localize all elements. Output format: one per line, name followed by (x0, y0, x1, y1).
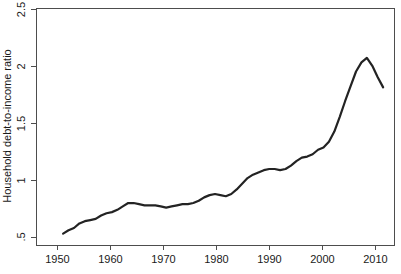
chart-container: .5 1 1.5 2 2.5 Household debt-to-income … (0, 0, 401, 274)
y-tick-label-3: 2 (15, 63, 27, 69)
y-tick-label-4: 2.5 (15, 2, 27, 17)
x-tick-label-2: 1970 (151, 253, 175, 265)
y-tick-label-1: 1 (15, 177, 27, 183)
x-tick-label-6: 2010 (363, 253, 387, 265)
x-tick-label-4: 1990 (257, 253, 281, 265)
x-tick-label-3: 1980 (204, 253, 228, 265)
line-chart: .5 1 1.5 2 2.5 Household debt-to-income … (0, 0, 401, 274)
y-tick-label-2: 1.5 (15, 116, 27, 131)
y-axis-title: Household debt-to-income ratio (1, 49, 13, 202)
x-tick-label-0: 1950 (45, 253, 69, 265)
y-tick-label-0: .5 (15, 232, 27, 241)
x-tick-label-5: 2000 (310, 253, 334, 265)
plot-area-background (36, 8, 394, 245)
x-tick-label-1: 1960 (98, 253, 122, 265)
